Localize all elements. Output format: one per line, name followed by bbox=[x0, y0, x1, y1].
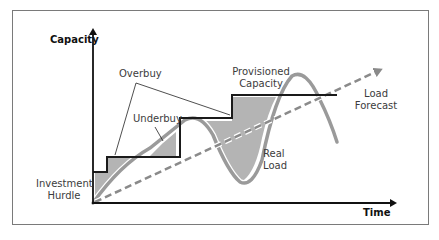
overbuy-label: Overbuy bbox=[119, 68, 162, 80]
investment-hurdle-label-line2: Hurdle bbox=[36, 190, 92, 202]
provisioned-capacity-label-line1: Provisioned bbox=[228, 66, 294, 78]
investment-hurdle-label: Investment Hurdle bbox=[36, 178, 92, 202]
load-forecast-label-line1: Load bbox=[352, 88, 400, 100]
underbuy-label: Underbuy bbox=[133, 113, 182, 125]
real-load-label-line1: Real bbox=[263, 148, 287, 160]
load-forecast-label: Load Forecast bbox=[352, 88, 400, 112]
load-forecast-label-line2: Forecast bbox=[352, 100, 400, 112]
y-axis-label: Capacity bbox=[50, 34, 99, 46]
real-load-label: Real Load bbox=[263, 148, 287, 172]
investment-hurdle-label-line1: Investment bbox=[36, 178, 92, 190]
x-axis-label: Time bbox=[363, 207, 390, 219]
provisioned-capacity-label: Provisioned Capacity bbox=[228, 66, 294, 90]
real-load-label-line2: Load bbox=[263, 160, 287, 172]
provisioned-capacity-label-line2: Capacity bbox=[228, 78, 294, 90]
